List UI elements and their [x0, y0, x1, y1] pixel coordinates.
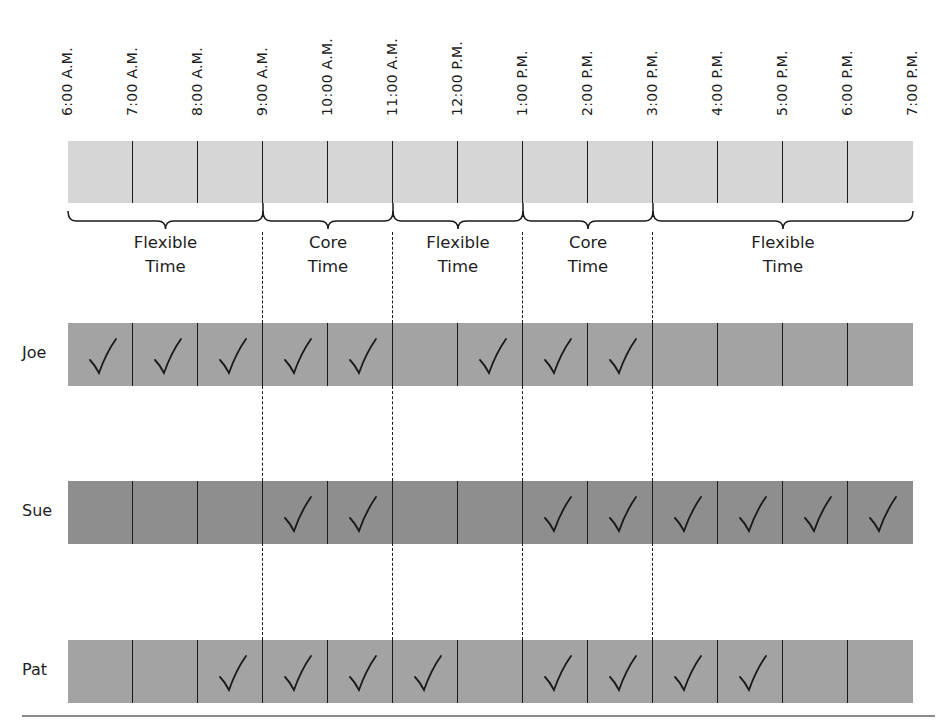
time-slot — [847, 640, 913, 703]
checkmark-icon — [198, 323, 263, 385]
time-slot — [132, 481, 198, 544]
core-boundary-dashed-line — [392, 232, 393, 323]
checkmark-icon — [588, 640, 653, 702]
time-slot — [652, 323, 718, 386]
checkmark-icon — [588, 323, 653, 385]
time-slot — [717, 640, 783, 703]
core-boundary-dashed-line — [522, 543, 523, 640]
schedule-row-sue — [68, 481, 913, 544]
time-slot — [197, 640, 263, 703]
time-slot — [847, 481, 913, 544]
checkmark-icon — [653, 481, 718, 543]
bottom-rule — [22, 715, 935, 717]
core-boundary-dashed-line — [392, 386, 393, 481]
checkmark-icon — [523, 481, 588, 543]
checkmark-icon — [133, 323, 198, 385]
time-slot — [68, 640, 133, 703]
core-boundary-dashed-line — [652, 232, 653, 323]
time-slot — [522, 323, 588, 386]
segment-label: FlexibleTime — [426, 231, 490, 279]
checkmark-icon — [783, 481, 848, 543]
row-label: Joe — [22, 343, 46, 362]
checkmark-icon — [328, 481, 393, 543]
time-slot — [392, 640, 458, 703]
time-slot — [782, 640, 848, 703]
time-slot — [717, 323, 783, 386]
time-slot — [847, 323, 913, 386]
checkmark-icon — [848, 481, 913, 543]
time-slot — [68, 481, 133, 544]
time-slot — [68, 323, 133, 386]
segment-label-line: Flexible — [426, 231, 490, 255]
checkmark-icon — [588, 481, 653, 543]
checkmark-icon — [328, 323, 393, 385]
row-label: Sue — [22, 501, 52, 520]
time-slot — [457, 323, 523, 386]
time-slot — [392, 481, 458, 544]
checkmark-icon — [393, 640, 458, 702]
segment-brackets — [0, 0, 945, 240]
checkmark-icon — [718, 640, 783, 702]
time-slot — [197, 323, 263, 386]
checkmark-icon — [458, 323, 523, 385]
time-slot — [392, 323, 458, 386]
row-label: Pat — [22, 660, 47, 679]
checkmark-icon — [263, 481, 328, 543]
time-slot — [327, 481, 393, 544]
core-boundary-dashed-line — [522, 232, 523, 323]
checkmark-icon — [263, 640, 328, 702]
time-slot — [262, 323, 328, 386]
segment-label-line: Time — [426, 255, 490, 279]
checkmark-icon — [523, 640, 588, 702]
time-slot — [327, 640, 393, 703]
time-slot — [587, 323, 653, 386]
schedule-row-pat — [68, 640, 913, 703]
time-slot — [522, 481, 588, 544]
time-slot — [717, 481, 783, 544]
time-slot — [587, 640, 653, 703]
segment-label-line: Time — [568, 255, 608, 279]
segment-label-line: Time — [308, 255, 348, 279]
time-slot — [652, 640, 718, 703]
time-slot — [197, 481, 263, 544]
segment-label-line: Time — [134, 255, 198, 279]
time-slot — [132, 323, 198, 386]
segment-label: FlexibleTime — [134, 231, 198, 279]
core-boundary-dashed-line — [652, 543, 653, 640]
checkmark-icon — [718, 481, 783, 543]
checkmark-icon — [198, 640, 263, 702]
core-boundary-dashed-line — [262, 232, 263, 323]
core-boundary-dashed-line — [652, 386, 653, 481]
time-slot — [652, 481, 718, 544]
checkmark-icon — [653, 640, 718, 702]
checkmark-icon — [263, 323, 328, 385]
checkmark-icon — [68, 323, 133, 385]
time-slot — [457, 481, 523, 544]
time-slot — [262, 640, 328, 703]
core-boundary-dashed-line — [262, 543, 263, 640]
time-slot — [327, 323, 393, 386]
segment-label-line: Core — [568, 231, 608, 255]
time-slot — [132, 640, 198, 703]
time-slot — [457, 640, 523, 703]
segment-label-line: Time — [751, 255, 815, 279]
core-boundary-dashed-line — [392, 543, 393, 640]
segment-label-line: Flexible — [751, 231, 815, 255]
segment-label: CoreTime — [308, 231, 348, 279]
segment-label-line: Flexible — [134, 231, 198, 255]
core-boundary-dashed-line — [522, 386, 523, 481]
time-slot — [782, 323, 848, 386]
time-slot — [522, 640, 588, 703]
schedule-row-joe — [68, 323, 913, 386]
time-slot — [587, 481, 653, 544]
checkmark-icon — [328, 640, 393, 702]
segment-label-line: Core — [308, 231, 348, 255]
segment-label: CoreTime — [568, 231, 608, 279]
checkmark-icon — [523, 323, 588, 385]
time-slot — [782, 481, 848, 544]
segment-label: FlexibleTime — [751, 231, 815, 279]
time-slot — [262, 481, 328, 544]
core-boundary-dashed-line — [262, 386, 263, 481]
